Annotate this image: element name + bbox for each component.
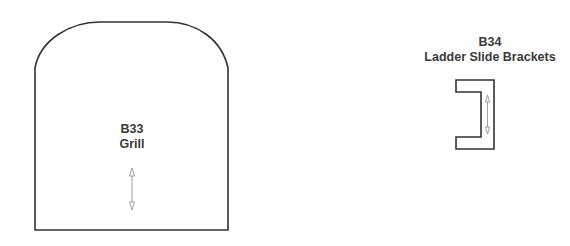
- grill-label: B33 Grill: [102, 122, 162, 152]
- grill-part-id: B33: [102, 122, 162, 137]
- grill-part-name: Grill: [102, 137, 162, 152]
- bracket-vertical-arrow-icon: [486, 95, 490, 134]
- grill-vertical-arrow-icon: [130, 168, 135, 210]
- bracket-outline: [456, 80, 494, 149]
- bracket-part-name: Ladder Slide Brackets: [415, 50, 565, 65]
- bracket-label: B34 Ladder Slide Brackets: [415, 35, 565, 65]
- bracket-part-id: B34: [415, 35, 565, 50]
